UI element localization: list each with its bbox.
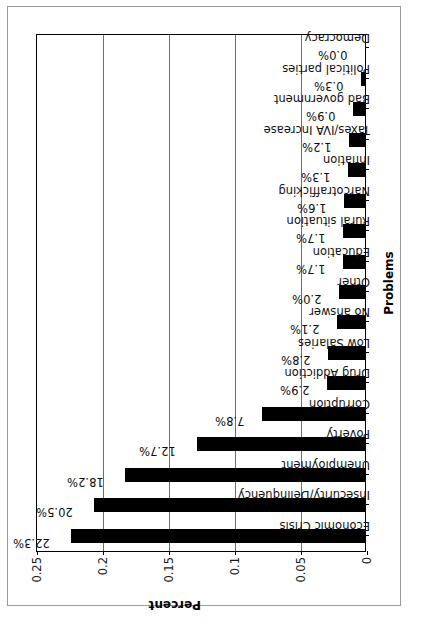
category-axis-label: Poverty xyxy=(326,427,369,441)
category-axis-label: Inflation xyxy=(323,153,370,167)
value-axis-tick-label: 0.1 xyxy=(228,557,242,575)
value-axis-tick-mark xyxy=(301,551,302,555)
value-axis-tick-label: 0.05 xyxy=(294,557,308,583)
category-axis-label: Democracy xyxy=(304,31,369,45)
category-axis-label: Other xyxy=(337,275,370,289)
bar-value-label: 18.2% xyxy=(66,474,103,488)
category-axis-label: Low Salaries xyxy=(298,335,370,349)
bar-slot[interactable]: 1.3% xyxy=(37,163,365,177)
category-axis-label: Bad government xyxy=(274,92,370,106)
value-axis-tick-mark xyxy=(37,551,38,555)
bar-chart: Percent 00.050.10.150.20.25 22.3%20.5%18… xyxy=(14,14,408,614)
bar-value-label: 7.8% xyxy=(215,413,244,427)
bar-value-label: 0.9% xyxy=(306,109,335,123)
category-axis-label: Drug Addiction xyxy=(284,366,370,380)
category-axis-label: Economic Crisis xyxy=(279,518,369,532)
bar-value-label: 22.3% xyxy=(12,535,49,549)
category-axis-label: Narcotrafficking xyxy=(278,183,370,197)
value-axis-tick-mark xyxy=(235,551,236,555)
bar-value-label: 1.2% xyxy=(302,139,331,153)
bar-value-label: 2.1% xyxy=(290,322,319,336)
bar-value-label: 0.3% xyxy=(314,78,343,92)
bar-value-label: 1.7% xyxy=(295,231,324,245)
bar-value-label: 1.7% xyxy=(295,261,324,275)
value-axis-title: Percent xyxy=(148,598,200,612)
bar-value-label: 1.6% xyxy=(297,200,326,214)
value-axis-tick-label: 0 xyxy=(360,557,374,564)
bar-value-label: 2.0% xyxy=(291,292,320,306)
category-axis-label: Insecurity/Delinquency xyxy=(237,488,369,502)
bar-series: 22.3%20.5%18.2%12.7%7.8%2.9%2.8%2.1%2.0%… xyxy=(37,35,365,551)
category-axis-label: Education xyxy=(312,244,369,258)
value-axis-tick-label: 0.25 xyxy=(30,557,44,583)
bar-slot[interactable]: 12.7% xyxy=(37,437,365,451)
bar-slot[interactable]: 2.0% xyxy=(37,285,365,299)
plot-area: 00.050.10.150.20.25 22.3%20.5%18.2%12.7%… xyxy=(36,34,366,552)
category-axis-label: Corruption xyxy=(309,396,370,410)
category-axis-label: No answer xyxy=(309,305,370,319)
category-axis-title: Problems xyxy=(382,14,396,552)
bar-value-label: 1.3% xyxy=(301,170,330,184)
category-axis-label: Taxes/IVA Increase xyxy=(263,122,369,136)
value-axis-tick-mark xyxy=(169,551,170,555)
bar-value-label: 12.7% xyxy=(139,444,176,458)
bar-value-label: 0.0% xyxy=(318,48,347,62)
category-axis-label: Rural situation xyxy=(286,214,369,228)
bar-value-label: 2.8% xyxy=(281,352,310,366)
bar-value-label: 20.5% xyxy=(36,505,73,519)
value-axis-tick-mark xyxy=(103,551,104,555)
rotated-chart-wrapper: Percent 00.050.10.150.20.25 22.3%20.5%18… xyxy=(0,0,421,627)
value-axis-tick-label: 0.15 xyxy=(162,557,176,583)
category-axis-label: Political parties xyxy=(282,61,370,75)
bar-value-label: 2.9% xyxy=(279,383,308,397)
category-axis-label: Unemployment xyxy=(281,457,369,471)
value-axis-tick-label: 0.2 xyxy=(96,557,110,575)
